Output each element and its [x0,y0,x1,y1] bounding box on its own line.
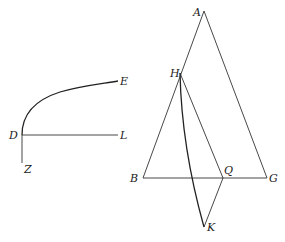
left-figure: E D L Z [8,75,128,176]
label-z: Z [23,163,32,176]
curve-de [22,81,118,135]
label-e: E [119,75,128,88]
diagram-canvas: E D L Z A H B Q G K [0,0,285,242]
label-h: H [169,67,180,80]
label-b: B [129,172,138,185]
right-figure: A H B Q G K [129,6,278,234]
label-g: G [269,172,278,185]
label-d: D [8,129,18,142]
label-l: L [119,129,127,142]
segment-hq [180,73,223,178]
curve-hk [180,73,204,227]
label-k: K [206,221,216,234]
label-q: Q [224,164,233,177]
segment-qk [204,178,223,227]
label-a: A [192,6,201,19]
segment-ab [143,11,204,178]
segment-ag [204,11,267,178]
